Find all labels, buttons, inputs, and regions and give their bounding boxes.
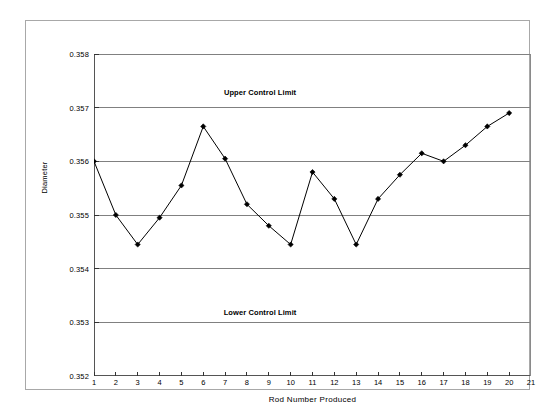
control-limit-label: Upper Control Limit [224,87,296,96]
x-axis-tick-label: 16 [418,378,426,387]
x-axis-tick-label: 2 [114,378,118,387]
x-axis-tick-label: 4 [157,378,161,387]
x-axis-tick-label: 8 [245,378,249,387]
x-axis-tick-label: 17 [439,378,447,387]
data-point-marker [354,242,359,247]
x-axis-tick-label: 1 [92,378,96,387]
y-axis-tick-labels: 0.3520.3530.3540.3550.3560.3570.358 [26,54,89,376]
y-axis-tick-label: 0.352 [69,372,89,381]
y-axis-tick-label: 0.354 [69,264,89,273]
x-axis-tick-label: 15 [396,378,404,387]
y-axis-title: Diameter [40,138,49,218]
line-chart-svg [94,54,531,376]
x-axis-tick-labels: 123456789101112131415161718192021 [94,378,531,394]
x-axis-tick-label: 7 [223,378,227,387]
data-line [94,113,509,244]
x-axis-tick-label: 20 [505,378,513,387]
data-point-marker [94,159,97,164]
x-axis-tick-label: 10 [286,378,294,387]
x-axis-tick-label: 19 [483,378,491,387]
x-axis-tick-label: 6 [201,378,205,387]
x-axis-tick-label: 13 [352,378,360,387]
x-axis-tick-label: 12 [330,378,338,387]
y-axis-tick-label: 0.356 [69,157,89,166]
x-axis-tick-label: 9 [267,378,271,387]
x-axis-tick-label: 21 [527,378,535,387]
x-axis-title: Rod Number Produced [94,395,531,404]
chart-frame: 0.3520.3530.3540.3550.3560.3570.358 Diam… [25,20,530,390]
y-axis-tick-label: 0.355 [69,211,89,220]
x-axis-tick-label: 18 [461,378,469,387]
x-axis-tick-label: 5 [179,378,183,387]
x-axis-tick-label: 14 [374,378,382,387]
y-axis-tick-label: 0.358 [69,50,89,59]
x-axis-tick-label: 3 [136,378,140,387]
x-axis-tick-label: 11 [309,378,317,387]
y-axis-tick-label: 0.357 [69,103,89,112]
y-axis-tick-label: 0.353 [69,318,89,327]
data-point-marker [507,110,512,115]
control-limit-label: Lower Control Limit [224,307,297,316]
plot-area: Upper Control LimitLower Control Limit [94,54,531,376]
